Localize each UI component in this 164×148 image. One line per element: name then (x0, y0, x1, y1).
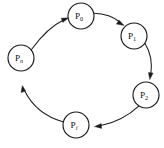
edge-p1-to-p2-path (145, 44, 151, 75)
edge-p1-to-p2 (145, 44, 153, 80)
edge-p0-to-p1-arrowhead (116, 20, 124, 25)
node-p2[interactable]: P2 (133, 82, 159, 108)
node-pn-subscript: n (20, 57, 23, 64)
node-p1[interactable]: P1 (121, 23, 147, 49)
ring-diagram-canvas: P0 P1 P2 Pi Pn (0, 0, 164, 148)
edge-p1-to-p2-arrowhead (148, 73, 153, 80)
edge-pn-to-p0-arrowhead (61, 18, 68, 23)
edge-pn-to-p0 (32, 18, 69, 50)
edge-pn-to-p0-path (32, 20, 65, 50)
edge-p0-to-p1 (94, 13, 124, 25)
edge-p0-to-p1-path (94, 13, 121, 22)
node-p1-subscript: 1 (133, 35, 136, 42)
node-p0[interactable]: P0 (68, 3, 94, 29)
node-pi[interactable]: Pi (63, 112, 89, 138)
node-pn[interactable]: Pn (8, 45, 34, 71)
ring-diagram: P0 P1 P2 Pi Pn (0, 0, 164, 148)
edge-p2-to-pi (95, 106, 139, 129)
node-pi-subscript: i (76, 124, 78, 131)
node-p0-subscript: 0 (80, 15, 83, 22)
edge-p2-to-pi-path (100, 106, 139, 126)
edge-pi-to-pn-path (25, 91, 64, 123)
edge-p2-to-pi-arrowhead (95, 124, 102, 129)
node-p2-subscript: 2 (145, 94, 148, 101)
edge-pi-to-pn (21, 86, 64, 122)
